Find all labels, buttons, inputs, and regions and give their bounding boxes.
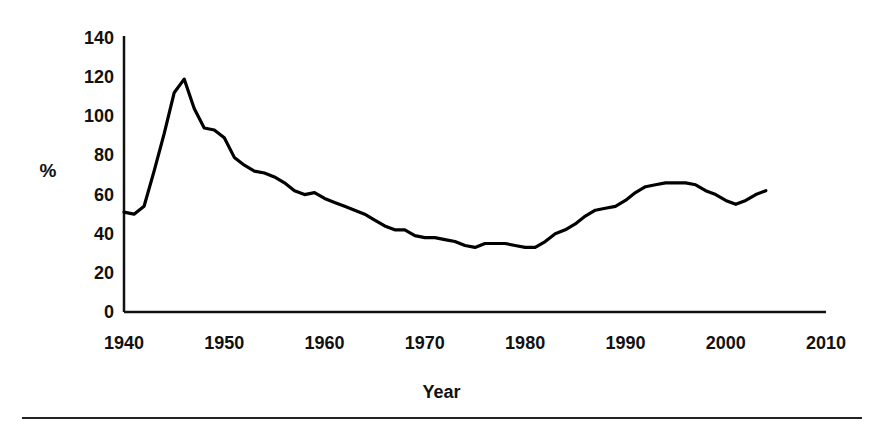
y-tick-label-20: 20 bbox=[68, 264, 114, 282]
x-tick-label-2010: 2010 bbox=[791, 334, 861, 352]
y-tick-label-0: 0 bbox=[68, 303, 114, 321]
x-axis-title: Year bbox=[0, 382, 883, 403]
line-chart-plot bbox=[0, 0, 883, 428]
y-tick-label-40: 40 bbox=[68, 225, 114, 243]
y-tick-label-120: 120 bbox=[68, 68, 114, 86]
chart-figure: % 020406080100120140 1940195019601970198… bbox=[0, 0, 883, 428]
x-tick-label-1990: 1990 bbox=[590, 334, 660, 352]
x-tick-label-1960: 1960 bbox=[290, 334, 360, 352]
x-tick-label-1970: 1970 bbox=[390, 334, 460, 352]
x-tick-label-1980: 1980 bbox=[490, 334, 560, 352]
axis-lines bbox=[124, 36, 826, 312]
data-series-group bbox=[124, 79, 766, 247]
x-tick-label-1950: 1950 bbox=[189, 334, 259, 352]
y-tick-label-140: 140 bbox=[68, 29, 114, 47]
y-tick-label-60: 60 bbox=[68, 186, 114, 204]
series-line-percent bbox=[124, 79, 766, 247]
y-tick-label-100: 100 bbox=[68, 107, 114, 125]
x-tick-label-1940: 1940 bbox=[89, 334, 159, 352]
y-tick-label-80: 80 bbox=[68, 146, 114, 164]
footer-divider bbox=[22, 417, 862, 419]
x-tick-label-2000: 2000 bbox=[691, 334, 761, 352]
